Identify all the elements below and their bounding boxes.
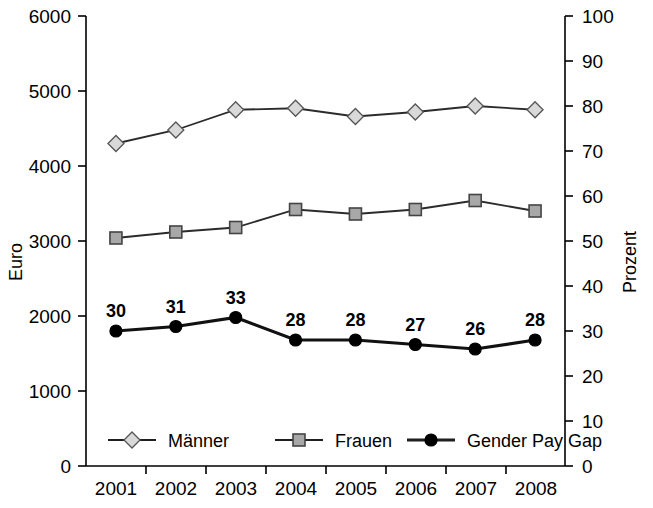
data-point-marker	[228, 102, 244, 118]
data-point-label: 31	[166, 297, 186, 317]
legend-item-3[interactable]: Gender Pay Gap	[407, 431, 602, 451]
y-tick-label-left: 5000	[29, 81, 71, 102]
data-point-marker	[469, 195, 481, 207]
chart-legend: MännerFrauenGender Pay Gap	[108, 431, 602, 451]
y-tick-label-right: 90	[582, 51, 603, 72]
y-tick-label-left: 0	[60, 456, 71, 477]
legend-item-2[interactable]: Frauen	[275, 431, 392, 451]
data-point-label: 28	[345, 310, 365, 330]
data-point-marker	[529, 205, 541, 217]
legend-marker-icon	[293, 434, 305, 446]
data-point-label: 27	[405, 315, 425, 335]
x-tick-label: 2007	[455, 478, 497, 499]
data-point-marker	[230, 312, 242, 324]
y-tick-label-left: 4000	[29, 156, 71, 177]
legend-item-1[interactable]: Männer	[108, 431, 229, 451]
data-point-marker	[288, 100, 304, 116]
legend-label: Gender Pay Gap	[467, 431, 602, 451]
data-point-label: 33	[226, 288, 246, 308]
y-axis-left-ticks: 6000 5000 4000 3000 2000 1000 0	[29, 6, 86, 477]
line-chart: 6000 5000 4000 3000 2000 1000 0 100 90 8…	[0, 0, 653, 508]
data-point-label: 28	[525, 310, 545, 330]
data-point-marker	[349, 208, 361, 220]
x-tick-label: 2003	[215, 478, 257, 499]
x-tick-label: 2008	[515, 478, 557, 499]
y-tick-label-right: 50	[582, 231, 603, 252]
data-point-marker	[170, 226, 182, 238]
data-point-marker	[467, 98, 483, 114]
y-tick-label-left: 3000	[29, 231, 71, 252]
data-point-marker	[409, 339, 421, 351]
y-tick-label-right: 60	[582, 186, 603, 207]
series-1	[108, 98, 543, 152]
chart-container: 6000 5000 4000 3000 2000 1000 0 100 90 8…	[0, 0, 653, 508]
data-point-label: 26	[465, 319, 485, 339]
y-tick-label-right: 10	[582, 411, 603, 432]
series-2	[110, 195, 541, 245]
y-axis-left-title: Euro	[6, 243, 26, 281]
legend-label: Männer	[168, 431, 229, 451]
y-tick-label-left: 1000	[29, 381, 71, 402]
data-point-marker	[170, 321, 182, 333]
data-point-label: 30	[106, 301, 126, 321]
legend-label: Frauen	[335, 431, 392, 451]
data-point-marker	[108, 136, 124, 152]
y-axis-right-ticks: 100 90 80 70 60 50 40 30 20 10 0	[565, 6, 614, 477]
data-point-marker	[347, 109, 363, 125]
x-tick-label: 2004	[275, 478, 318, 499]
y-tick-label-right: 20	[582, 366, 603, 387]
y-tick-label-left: 2000	[29, 306, 71, 327]
data-point-marker	[527, 102, 543, 118]
y-tick-label-right: 80	[582, 96, 603, 117]
x-tick-label: 2005	[335, 478, 377, 499]
data-point-marker	[407, 104, 423, 120]
data-point-marker	[110, 325, 122, 337]
data-point-marker	[349, 334, 361, 346]
y-tick-label-left: 6000	[29, 6, 71, 27]
data-point-marker	[110, 232, 122, 244]
data-point-marker	[290, 204, 302, 216]
data-point-marker	[290, 334, 302, 346]
legend-marker-icon	[124, 432, 140, 448]
data-point-marker	[168, 122, 184, 138]
y-tick-label-right: 30	[582, 321, 603, 342]
legend-marker-icon	[425, 434, 437, 446]
x-axis-ticks: 2001 2002 2003 2004 2005 2006 2007 2008	[95, 466, 557, 499]
x-tick-label: 2001	[95, 478, 137, 499]
x-tick-label: 2002	[155, 478, 197, 499]
x-tick-label: 2006	[395, 478, 437, 499]
data-point-marker	[230, 222, 242, 234]
y-tick-label-right: 100	[582, 6, 614, 27]
data-point-marker	[469, 343, 481, 355]
y-tick-label-right: 40	[582, 276, 603, 297]
data-point-marker	[409, 204, 421, 216]
data-point-marker	[529, 334, 541, 346]
y-tick-label-right: 70	[582, 141, 603, 162]
axes-group	[86, 16, 565, 466]
y-tick-label-right: 0	[582, 456, 593, 477]
y-axis-right-title: Prozent	[620, 231, 640, 293]
data-point-label: 28	[286, 310, 306, 330]
